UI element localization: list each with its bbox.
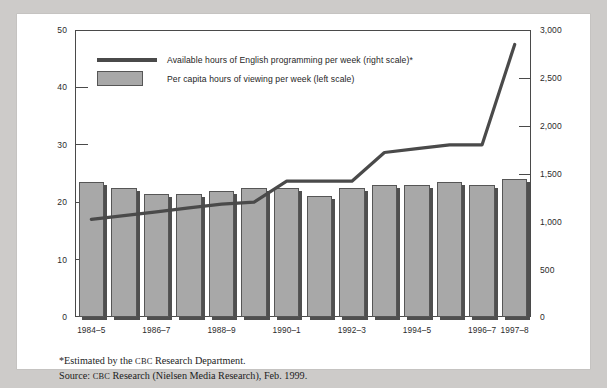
- line-swatch-icon: [97, 58, 157, 62]
- x-axis-tick-label: 1997–8: [490, 325, 540, 335]
- x-axis-tick-label: 1990–1: [262, 325, 312, 335]
- x-axis-tick-label: 1986–7: [131, 325, 181, 335]
- x-axis-tick-label: 1984–5: [66, 325, 116, 335]
- figure-card: 50 40 30 20 10 0 3,000 2,500 2,000 1,500…: [17, 14, 590, 369]
- legend-label-bar: Per capita hours of viewing per week (le…: [167, 74, 354, 84]
- cbc-abbr: CBC: [93, 372, 110, 381]
- x-axis-tick-label: 1988–9: [197, 325, 247, 335]
- legend-item-line: Available hours of English programming p…: [97, 50, 427, 69]
- footnote-source: Source: CBC Research (Nielsen Media Rese…: [59, 369, 307, 384]
- chart-legend: Available hours of English programming p…: [97, 50, 427, 88]
- x-axis-tick-label: 1994–5: [392, 325, 442, 335]
- x-axis-tick-label: 1992–3: [327, 325, 377, 335]
- legend-label-line: Available hours of English programming p…: [167, 55, 413, 65]
- footnote-estimated: *Estimated by the CBC Research Departmen…: [59, 354, 307, 369]
- legend-item-bar: Per capita hours of viewing per week (le…: [97, 69, 427, 88]
- figure-footnotes: *Estimated by the CBC Research Departmen…: [59, 354, 307, 383]
- bar-swatch-icon: [97, 71, 143, 86]
- cbc-abbr: CBC: [135, 357, 152, 366]
